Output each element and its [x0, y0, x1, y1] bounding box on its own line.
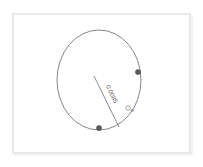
screenshot-root: 0.0085 ø [0, 0, 203, 167]
figure-panel: 0.0085 ø [0, 0, 203, 167]
marker-point-open [126, 106, 130, 110]
marker-point-right [135, 69, 140, 74]
figure-frame [13, 14, 190, 153]
diagram-svg: 0.0085 ø [0, 0, 203, 167]
marker-point-bottom [96, 125, 101, 130]
